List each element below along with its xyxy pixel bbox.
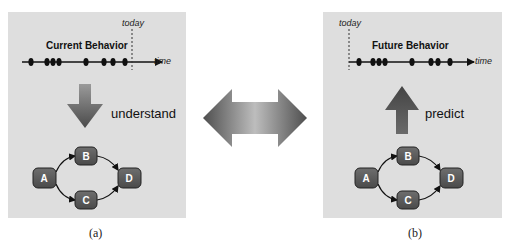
node-b: B: [75, 147, 97, 166]
node-c: C: [75, 191, 97, 210]
node-b: B: [397, 147, 419, 166]
caption-a: (a): [89, 226, 102, 241]
today-label-b: today: [339, 18, 361, 28]
node-a: A: [355, 169, 377, 188]
node-a: A: [33, 169, 55, 188]
today-label-a: today: [122, 18, 144, 28]
up-arrow-icon: [385, 86, 419, 134]
node-d: D: [440, 169, 462, 188]
node-d: D: [118, 169, 140, 188]
down-arrow-icon: [67, 84, 103, 128]
predict-label: predict: [425, 106, 464, 121]
time-label-b: time: [475, 56, 492, 66]
future-behavior-title: Future Behavior: [372, 40, 449, 51]
double-arrow-icon: [203, 89, 307, 147]
time-label-a: time: [154, 56, 171, 66]
node-c: C: [397, 191, 419, 210]
current-behavior-title: Current Behavior: [46, 40, 128, 51]
caption-b: (b): [408, 226, 422, 241]
understand-label: understand: [111, 106, 176, 121]
